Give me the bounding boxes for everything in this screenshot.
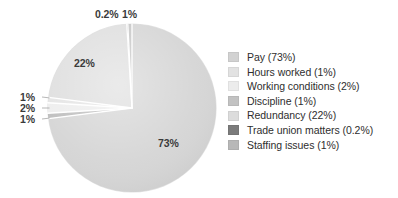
legend-swatch-icon — [228, 67, 239, 77]
legend-item-staffing-issues: Staffing issues (1%) — [228, 138, 396, 153]
legend-swatch-icon — [228, 111, 239, 121]
legend-item-hours-worked: Hours worked (1%) — [228, 65, 396, 80]
legend-swatch-icon — [228, 52, 239, 62]
slice-label-staffing-issues: 1% — [20, 114, 35, 125]
legend-label: Working conditions (2%) — [247, 81, 359, 92]
legend-swatch-icon — [228, 96, 239, 106]
chart-legend: Pay (73%) Hours worked (1%) Working cond… — [228, 50, 396, 152]
legend-item-discipline: Discipline (1%) — [228, 94, 396, 109]
legend-label: Hours worked (1%) — [247, 67, 336, 78]
slice-label-working-conditions: 2% — [20, 103, 35, 114]
slice-label-redundancy: 22% — [74, 58, 95, 69]
legend-label: Redundancy (22%) — [247, 110, 336, 121]
legend-label: Staffing issues (1%) — [247, 140, 339, 151]
pie-shading-overlay — [48, 24, 216, 192]
legend-swatch-icon — [228, 140, 239, 150]
pie-chart-figure: 73% 22% 0.2% 1% 1% 2% 1% Pay (73%) Hours… — [0, 0, 398, 198]
legend-swatch-icon — [228, 81, 239, 91]
legend-item-working-conditions: Working conditions (2%) — [228, 79, 396, 94]
slice-label-pay: 73% — [158, 138, 179, 149]
legend-item-trade-union-matters: Trade union matters (0.2%) — [228, 123, 396, 138]
slice-label-trade-union-matters: 0.2% — [95, 9, 119, 20]
legend-label: Trade union matters (0.2%) — [247, 125, 373, 136]
legend-label: Discipline (1%) — [247, 96, 316, 107]
legend-swatch-icon — [228, 125, 239, 135]
slice-label-hours-worked: 1% — [20, 92, 35, 103]
legend-label: Pay (73%) — [247, 52, 296, 63]
legend-item-redundancy: Redundancy (22%) — [228, 108, 396, 123]
legend-item-pay: Pay (73%) — [228, 50, 396, 65]
slice-label-discipline: 1% — [122, 9, 137, 20]
